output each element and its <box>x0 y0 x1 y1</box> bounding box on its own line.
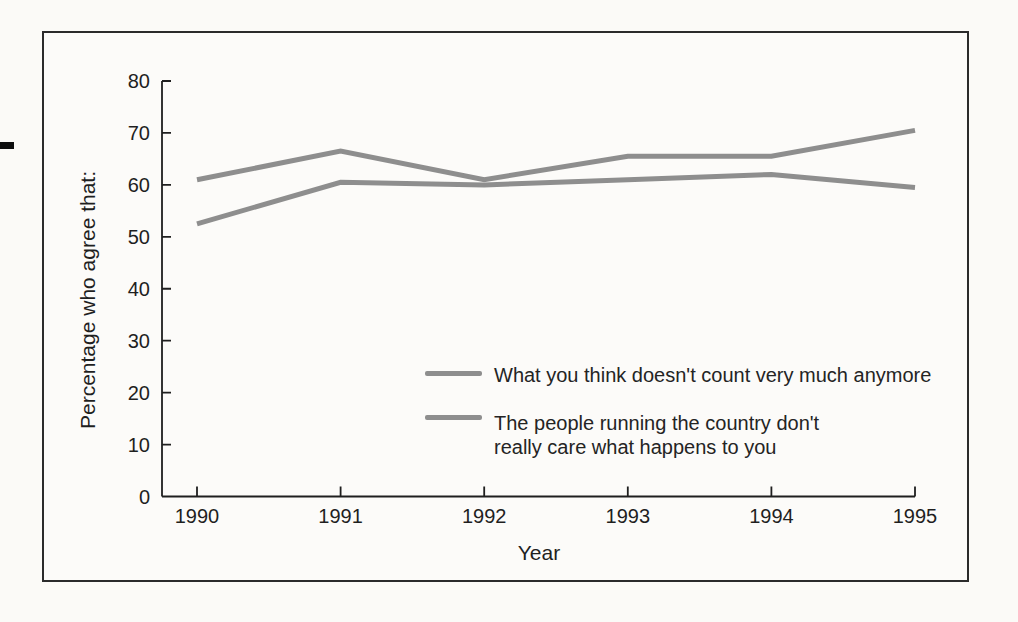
y-tick-label-70: 70 <box>104 122 150 144</box>
x-axis-title: Year <box>489 541 589 565</box>
y-tick-label-50: 50 <box>104 226 150 248</box>
series-line-2 <box>197 174 915 223</box>
legend-label-series-1: What you think doesn't count very much a… <box>494 363 931 387</box>
scanned-page: 0102030405060708019901991199219931994199… <box>0 0 1018 622</box>
series-line-1 <box>197 130 915 179</box>
y-tick-label-10: 10 <box>104 434 150 456</box>
x-tick-label-1994: 1994 <box>731 505 811 527</box>
x-tick-label-1993: 1993 <box>588 505 668 527</box>
legend-swatch-series-1 <box>425 371 482 376</box>
legend-swatch-series-2 <box>425 415 482 420</box>
y-tick-label-20: 20 <box>104 382 150 404</box>
legend-label-series-2-line-2: really care what happens to you <box>494 435 819 459</box>
y-tick-label-0: 0 <box>104 486 150 508</box>
x-tick-label-1992: 1992 <box>444 505 524 527</box>
y-axis-title: Percentage who agree that: <box>76 171 100 429</box>
y-tick-label-60: 60 <box>104 174 150 196</box>
line-chart <box>0 0 1018 622</box>
x-axis <box>162 487 915 497</box>
y-tick-label-40: 40 <box>104 278 150 300</box>
x-tick-label-1995: 1995 <box>875 505 955 527</box>
legend-label-series-2: The people running the country don't rea… <box>494 411 819 459</box>
x-tick-label-1991: 1991 <box>301 505 381 527</box>
y-axis <box>162 81 171 497</box>
x-tick-label-1990: 1990 <box>157 505 237 527</box>
y-tick-label-80: 80 <box>104 70 150 92</box>
legend-label-series-2-line-1: The people running the country don't <box>494 411 819 435</box>
y-tick-label-30: 30 <box>104 330 150 352</box>
